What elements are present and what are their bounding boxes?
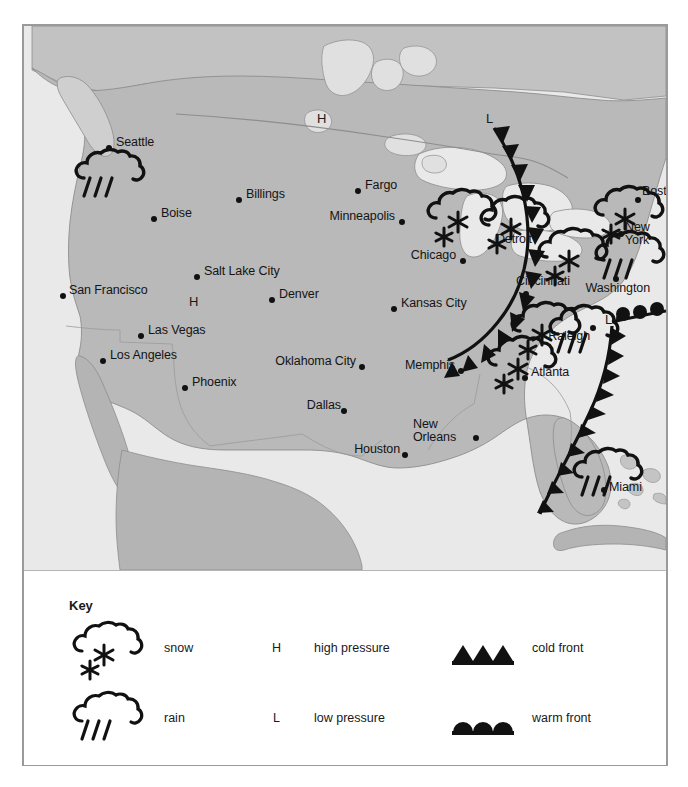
weather-map-page: Seattle Billings Boise Fargo Minneapolis… bbox=[0, 0, 688, 787]
key-symbol-high-pressure: H bbox=[272, 641, 281, 655]
key-glyph-layer bbox=[24, 571, 666, 765]
map-panel[interactable]: Seattle Billings Boise Fargo Minneapolis… bbox=[24, 26, 666, 570]
map-frame: Seattle Billings Boise Fargo Minneapolis… bbox=[22, 24, 668, 766]
key-label-snow: snow bbox=[164, 641, 193, 655]
key-panel: Key bbox=[24, 570, 666, 765]
key-label-rain: rain bbox=[164, 711, 185, 725]
key-label-warm-front: warm front bbox=[532, 711, 591, 725]
weather-snow-minneapolis-east bbox=[428, 189, 496, 246]
key-rain-cloud-icon bbox=[74, 692, 142, 739]
weather-rain-raleigh bbox=[550, 305, 618, 352]
key-warm-front-icon bbox=[452, 722, 514, 735]
key-label-low-pressure: low pressure bbox=[314, 711, 385, 725]
key-label-high-pressure: high pressure bbox=[314, 641, 390, 655]
key-symbol-low-pressure: L bbox=[273, 711, 280, 725]
weather-snow-atlanta bbox=[488, 336, 556, 393]
key-snow-cloud-icon bbox=[74, 622, 142, 679]
key-label-cold-front: cold front bbox=[532, 641, 583, 655]
key-cold-front-icon bbox=[452, 645, 514, 665]
weather-rain-seattle bbox=[76, 149, 144, 196]
weather-symbols-layer bbox=[24, 26, 666, 570]
weather-snow-new-york bbox=[595, 186, 663, 243]
weather-rain-miami bbox=[574, 448, 642, 495]
